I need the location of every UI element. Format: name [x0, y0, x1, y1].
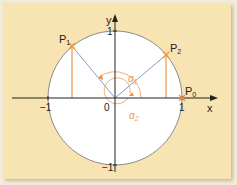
origin-label: 0	[104, 102, 110, 113]
y-axis-label: y	[106, 14, 112, 26]
tick-y-pos-label: 1	[107, 26, 113, 37]
x-axis-arrow-icon	[210, 95, 218, 101]
unit-circle-diagram: y x 0 1 −1 1 −1 P1 P2 P0 α1 α2	[0, 0, 236, 182]
tick-y-neg-label: −1	[102, 162, 114, 173]
x-axis-label: x	[207, 102, 213, 114]
y-axis-arrow-icon	[112, 14, 118, 22]
tick-x-neg-label: −1	[40, 102, 52, 113]
tick-x-pos-label: 1	[179, 102, 185, 113]
p0-label: P0	[185, 85, 196, 98]
p2-label: P2	[170, 42, 181, 55]
p1-label: P1	[59, 33, 70, 46]
